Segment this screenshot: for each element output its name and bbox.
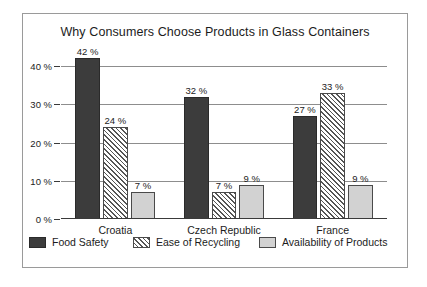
legend-item-ease-of-recycling[interactable]: Ease of Recycling bbox=[133, 236, 240, 248]
y-axis-tick-label: 10 % bbox=[30, 175, 52, 186]
bar-group: 42 %24 %7 %Croatia bbox=[61, 47, 170, 219]
x-axis-category-label: France bbox=[278, 224, 387, 236]
bar-value-label: 32 % bbox=[185, 85, 207, 96]
y-axis-tick-mark bbox=[54, 219, 60, 220]
bar-value-label: 33 % bbox=[322, 81, 344, 92]
chart-frame: Why Consumers Choose Products in Glass C… bbox=[22, 13, 408, 268]
y-axis-tick-label: 20 % bbox=[30, 137, 52, 148]
legend-label: Availability of Products bbox=[282, 236, 387, 248]
bar-value-label: 7 % bbox=[135, 180, 151, 191]
y-axis-tick-mark bbox=[54, 104, 60, 105]
bar-value-label: 27 % bbox=[294, 104, 316, 115]
x-axis-category-label: Croatia bbox=[61, 224, 170, 236]
bar-ease-of-recycling: 7 % bbox=[212, 192, 237, 219]
bar-ease-of-recycling: 24 % bbox=[103, 127, 128, 219]
y-axis-tick-mark bbox=[54, 66, 60, 67]
bar-food-safety: 42 % bbox=[75, 58, 100, 219]
chart-title: Why Consumers Choose Products in Glass C… bbox=[23, 25, 407, 39]
bar-availability-of-products: 7 % bbox=[131, 192, 156, 219]
bar-value-label: 9 % bbox=[352, 173, 368, 184]
legend-item-availability-of-products[interactable]: Availability of Products bbox=[259, 236, 387, 248]
bar-availability-of-products: 9 % bbox=[239, 185, 264, 219]
bar-availability-of-products: 9 % bbox=[348, 185, 373, 219]
bar-group: 32 %7 %9 %Czech Republic bbox=[170, 47, 279, 219]
legend-item-food-safety[interactable]: Food Safety bbox=[29, 236, 109, 248]
plot-area: 0 %10 %20 %30 %40 % 42 %24 %7 %Croatia32… bbox=[61, 47, 387, 219]
bar-value-label: 42 % bbox=[77, 46, 99, 57]
bar-group: 27 %33 %9 %France bbox=[278, 47, 387, 219]
y-axis-tick-mark bbox=[54, 143, 60, 144]
legend-swatch-ease-of-recycling bbox=[133, 237, 150, 248]
bar-food-safety: 32 % bbox=[184, 97, 209, 219]
y-axis-tick-label: 30 % bbox=[30, 99, 52, 110]
y-axis-tick-mark bbox=[54, 181, 60, 182]
legend-swatch-availability-of-products bbox=[259, 237, 276, 248]
y-axis-tick-label: 40 % bbox=[30, 61, 52, 72]
bar-value-label: 9 % bbox=[243, 173, 259, 184]
x-axis-category-label: Czech Republic bbox=[170, 224, 279, 236]
legend-label: Ease of Recycling bbox=[156, 236, 240, 248]
legend-swatch-food-safety bbox=[29, 237, 46, 248]
bar-ease-of-recycling: 33 % bbox=[320, 93, 345, 219]
bar-value-label: 7 % bbox=[216, 180, 232, 191]
x-axis-baseline bbox=[61, 218, 387, 219]
bar-value-label: 24 % bbox=[104, 115, 126, 126]
bar-food-safety: 27 % bbox=[293, 116, 318, 219]
y-axis-tick-label: 0 % bbox=[36, 214, 52, 225]
legend-label: Food Safety bbox=[52, 236, 109, 248]
